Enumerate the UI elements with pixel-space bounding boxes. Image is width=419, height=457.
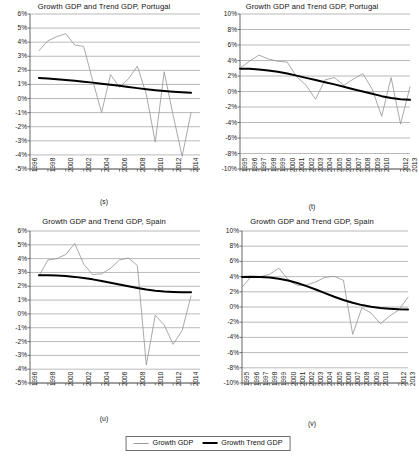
x-tick-label: 1999 [280,158,286,172]
x-tick-label: 2008 [140,158,146,172]
legend-label-growth-gdp: Growth GDP [153,439,194,447]
x-tick-label: 1995 [244,372,250,386]
plot-area-u: 6%5%4%3%2%1%0%-1%-2%-3%-4%-5% 1996199820… [0,215,208,430]
x-tick-label: 1996 [252,158,258,172]
x-tick-label: 2010 [384,158,390,172]
plot-area-s: 6%5%4%3%2%1%0%-1%-2%-3%-4%-5% 1996199820… [0,0,208,215]
x-tick-label: 1998 [271,158,277,172]
panel-s: Growth GDP and Trend GDP, Portugal 6%5%4… [0,0,208,215]
x-tick-label: 1996 [32,158,38,172]
panel-v: Growth GDP and Trend GDP, Spain 10%8%6%4… [208,215,416,430]
x-tick-label: 1998 [272,372,278,386]
x-tick-label: 1997 [261,158,267,172]
x-tick-label: 2004 [104,158,110,172]
x-tick-label: 2010 [383,372,389,386]
x-tick-label: 2012 [403,158,409,172]
x-tick-label: 2000 [68,158,74,172]
x-tick-label: 2000 [290,158,296,172]
panel-t: Growth GDP and Trend GDP, Portugal 10%8%… [208,0,416,215]
x-tick-label: 2009 [375,158,381,172]
x-tick-label: 2006 [346,158,352,172]
x-tick-label: 2014 [193,158,199,172]
x-tick-label: 2002 [86,372,92,386]
caption-u: (u) [0,415,208,423]
x-tick-label: 2006 [122,372,128,386]
x-axis-labels-t: 1995199619971998199920002001200220032004… [208,0,416,215]
x-tick-label: 2013 [412,158,418,172]
x-tick-label: 2007 [355,372,361,386]
x-tick-label: 2003 [318,158,324,172]
legend-item-growth-trend-gdp: Growth Trend GDP [202,439,282,447]
x-tick-label: 2001 [300,372,306,386]
x-axis-labels-v: 1995199619971998199920002001200220032004… [208,215,416,430]
legend-item-growth-gdp: Growth GDP [134,439,194,447]
x-tick-label: 2010 [158,158,164,172]
figure-panel-grid: Growth GDP and Trend GDP, Portugal 6%5%4… [0,0,416,430]
plot-area-t: 10%8%6%4%2%0%-2%-4%-6%-8%-10% 1995199619… [208,0,416,215]
x-tick-label: 2012 [401,372,407,386]
x-axis-labels-u: 1996199820002002200420062008201020122014 [0,215,208,430]
x-tick-label: 2004 [327,158,333,172]
x-tick-label: 2006 [346,372,352,386]
caption-v: (v) [208,420,416,428]
legend-line-grey-icon [134,443,149,444]
x-tick-label: 2004 [104,372,110,386]
plot-area-v: 10%8%6%4%2%0%-2%-4%-6%-8%-10% 1995199619… [208,215,416,430]
x-axis-labels-s: 1996199820002002200420062008201020122014 [0,0,208,215]
x-tick-label: 2004 [327,372,333,386]
x-tick-label: 2002 [309,372,315,386]
x-tick-label: 2008 [140,372,146,386]
x-tick-label: 1996 [32,372,38,386]
x-tick-label: 2000 [68,372,74,386]
x-tick-label: 2008 [365,158,371,172]
x-tick-label: 2012 [176,158,182,172]
x-tick-label: 2005 [337,158,343,172]
x-tick-label: 2012 [176,372,182,386]
x-tick-label: 2003 [318,372,324,386]
x-tick-label: 2010 [158,372,164,386]
x-tick-label: 2002 [86,158,92,172]
x-tick-label: 2013 [410,372,416,386]
x-tick-label: 2006 [122,158,128,172]
panel-u: Growth GDP and Trend GDP, Spain 6%5%4%3%… [0,215,208,430]
x-tick-label: 2008 [364,372,370,386]
legend-line-black-icon [202,442,217,444]
x-tick-label: 2002 [309,158,315,172]
x-tick-label: 2001 [299,158,305,172]
x-tick-label: 2014 [193,372,199,386]
x-tick-label: 2007 [356,158,362,172]
x-tick-label: 1999 [281,372,287,386]
x-tick-label: 1996 [254,372,260,386]
x-tick-label: 1998 [50,158,56,172]
x-tick-label: 2009 [374,372,380,386]
x-tick-label: 2000 [291,372,297,386]
x-tick-label: 1997 [263,372,269,386]
x-tick-label: 1998 [50,372,56,386]
x-tick-label: 2005 [337,372,343,386]
figure-legend: Growth GDP Growth Trend GDP [126,436,291,451]
caption-s: (s) [0,198,208,206]
legend-label-growth-trend-gdp: Growth Trend GDP [221,439,282,447]
x-tick-label: 1995 [242,158,248,172]
caption-t: (t) [208,203,416,211]
